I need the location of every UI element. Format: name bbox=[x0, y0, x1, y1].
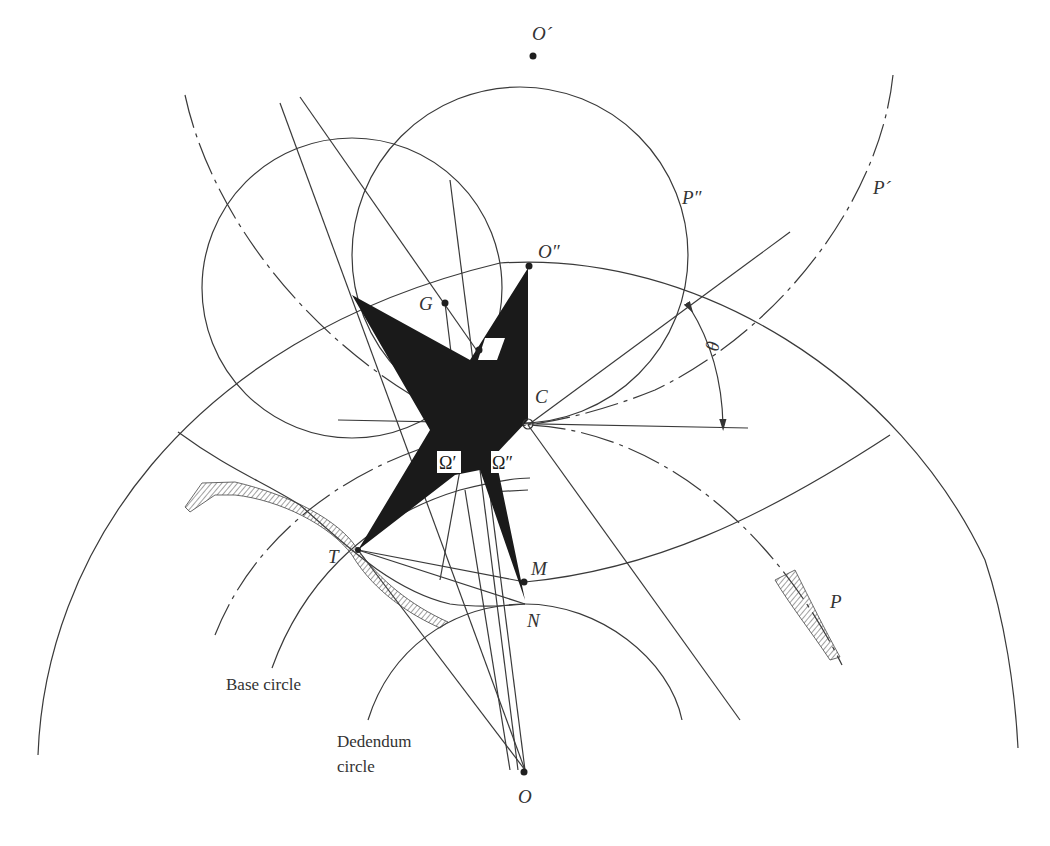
label-t: T bbox=[328, 546, 340, 567]
root-arc-right bbox=[525, 435, 890, 582]
line-c-upper-right bbox=[528, 232, 790, 425]
label-dedendum-line2: circle bbox=[337, 757, 375, 776]
line-c-to-lower-right bbox=[528, 425, 740, 720]
point-o-prime bbox=[530, 53, 537, 60]
theta-arc bbox=[690, 308, 723, 425]
label-o-prime: O´ bbox=[532, 23, 553, 44]
label-p-double-prime: P″ bbox=[681, 187, 703, 208]
label-base-circle: Base circle bbox=[226, 675, 301, 694]
label-c: C bbox=[535, 386, 548, 407]
label-o: O bbox=[518, 786, 532, 807]
point-g bbox=[442, 300, 449, 307]
omega-double-prime-label: Ω″ bbox=[492, 453, 513, 473]
label-o-double-prime: O″ bbox=[538, 241, 561, 262]
omega-prime-label: Ω′ bbox=[439, 453, 456, 473]
star-shape bbox=[352, 268, 528, 600]
point-inner bbox=[476, 347, 483, 354]
label-g: G bbox=[419, 293, 433, 314]
gear-geometry-diagram: Ω′ Ω″ O´ O″ G C T M N O P P´ P″ θ Base c… bbox=[0, 0, 1050, 846]
hatched-tooth-right bbox=[775, 570, 840, 660]
dedendum-circle bbox=[368, 604, 682, 720]
point-o bbox=[521, 769, 528, 776]
point-m bbox=[521, 579, 528, 586]
label-p-prime: P´ bbox=[872, 177, 892, 198]
line-a bbox=[440, 470, 460, 580]
pitch-circle-p-prime-right bbox=[528, 75, 893, 425]
label-theta: θ bbox=[701, 340, 723, 353]
point-o-double-prime bbox=[526, 263, 533, 270]
label-m: M bbox=[530, 558, 548, 579]
label-n: N bbox=[526, 610, 541, 631]
label-p: P bbox=[829, 591, 842, 612]
point-t bbox=[355, 547, 361, 553]
label-dedendum-line1: Dedendum bbox=[337, 732, 412, 751]
